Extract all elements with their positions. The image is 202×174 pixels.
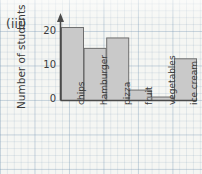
x-label-ice-cream: ice cream: [189, 60, 199, 104]
bar-chart: (iii) Number of students 20 10 0 chipsha…: [0, 0, 202, 174]
x-label-vegetables: vegetables: [167, 55, 177, 105]
x-label-chips: chips: [76, 81, 86, 105]
x-label-hamburger: hamburger: [99, 55, 109, 105]
x-label-pizza: pizza: [122, 81, 132, 104]
y-axis-arrow-icon: [57, 13, 64, 22]
x-label-fruit: fruit: [144, 86, 154, 105]
